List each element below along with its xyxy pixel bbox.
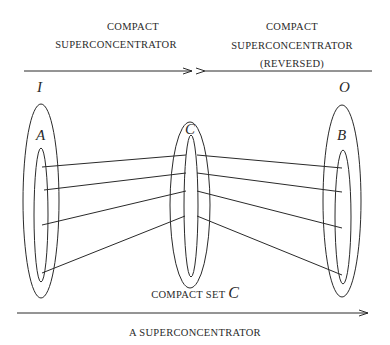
set-label-o: O bbox=[339, 79, 350, 95]
subset-label-a: A bbox=[35, 127, 46, 143]
connection-c-b-3 bbox=[197, 191, 342, 228]
connection-a-c-2 bbox=[44, 173, 186, 190]
top-right-label-line2: SUPERCONCENTRATOR bbox=[231, 40, 353, 51]
bottom-label: A SUPERCONCENTRATOR bbox=[129, 327, 261, 338]
subset-label-b: B bbox=[337, 127, 346, 143]
connection-a-c-3 bbox=[42, 191, 186, 225]
connection-c-b-2 bbox=[197, 173, 342, 192]
connection-c-b-4 bbox=[197, 216, 342, 275]
top-right-label-line1: COMPACT bbox=[266, 21, 318, 32]
top-left-label-line2: SUPERCONCENTRATOR bbox=[55, 39, 177, 50]
compact-set-label: COMPACT SET C bbox=[151, 284, 239, 301]
subset-b-ellipse bbox=[335, 150, 351, 284]
compact-set-label-var: C bbox=[228, 284, 239, 301]
compact-set-c-inner-ellipse bbox=[184, 135, 198, 277]
connection-a-c-4 bbox=[42, 216, 185, 273]
compact-set-label-prefix: COMPACT SET bbox=[151, 289, 228, 300]
connection-c-b-1 bbox=[197, 155, 342, 168]
subset-label-c: C bbox=[185, 121, 196, 137]
top-right-label-line3: (REVERSED) bbox=[260, 58, 324, 70]
subset-a-ellipse bbox=[34, 148, 48, 282]
set-label-i: I bbox=[36, 79, 43, 95]
compact-set-c-outer-ellipse bbox=[170, 122, 210, 288]
connection-a-c-1 bbox=[42, 155, 186, 167]
superconcentrator-diagram: COMPACT SUPERCONCENTRATOR COMPACT SUPERC… bbox=[0, 0, 390, 345]
top-left-label-line1: COMPACT bbox=[107, 21, 159, 32]
